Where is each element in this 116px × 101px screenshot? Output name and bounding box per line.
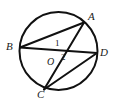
point-label-C: C [37,89,44,100]
segment-B-D [20,48,97,54]
geometry-canvas [0,0,116,101]
point-label-D: D [100,47,108,58]
geometry-figure: A B C D O 1 2 [0,0,116,101]
point-label-A: A [88,11,95,22]
angle-label-1: 1 [55,39,60,48]
center-label-O: O [47,57,54,67]
angle-label-2: 2 [61,53,66,62]
point-label-B: B [6,41,13,52]
